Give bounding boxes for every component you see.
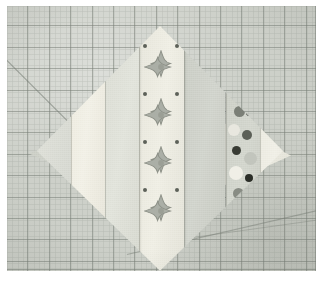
fabric-strip-5	[184, 14, 226, 271]
quilt-block-photo	[0, 0, 322, 282]
print-dot	[230, 30, 239, 39]
fabric-strip-6-dots	[226, 14, 260, 271]
print-dot	[240, 64, 254, 78]
print-dot	[232, 46, 245, 59]
print-dot	[228, 66, 238, 76]
print-dot	[247, 86, 256, 95]
cutting-mat	[7, 6, 316, 271]
fabric-texture	[29, 14, 71, 271]
fabric-texture	[226, 14, 260, 271]
fabric-texture	[71, 14, 105, 271]
seam-line	[71, 14, 72, 271]
seam-shadow	[139, 14, 142, 271]
print-dot	[175, 92, 179, 96]
four-petal-flower-icon	[144, 50, 178, 84]
fabric-texture	[105, 14, 139, 271]
print-dot	[246, 194, 256, 204]
fabric-strip-1	[29, 14, 71, 271]
seam-shadow	[184, 14, 187, 271]
fabric-strip-3	[105, 14, 139, 271]
four-petal-flower-icon	[144, 146, 178, 180]
print-dot	[242, 214, 251, 223]
print-dot	[230, 84, 246, 100]
four-petal-flower-icon	[144, 194, 178, 228]
four-petal-flower-icon	[144, 98, 178, 132]
print-dot	[244, 152, 257, 165]
print-dot	[175, 140, 179, 144]
fabric-strip-2	[71, 14, 105, 271]
print-dot	[175, 188, 179, 192]
quilt-block	[29, 14, 291, 271]
fabric-strip-7	[260, 14, 291, 271]
seam-line	[226, 14, 227, 271]
print-dot	[143, 44, 147, 48]
print-dot	[246, 109, 253, 116]
fabric-strip-4-motif	[139, 14, 184, 271]
seam-line	[260, 14, 261, 271]
print-dot	[246, 44, 254, 52]
print-dot	[242, 130, 252, 140]
fabric-texture	[260, 14, 291, 271]
print-dot	[233, 188, 244, 199]
print-dot	[232, 146, 241, 155]
print-dot	[143, 92, 147, 96]
print-dot	[234, 106, 245, 117]
print-dot	[234, 228, 244, 238]
on-point-square	[29, 14, 291, 271]
print-dot	[229, 166, 243, 180]
print-dot	[143, 140, 147, 144]
seam-line	[105, 14, 106, 271]
print-dot	[245, 174, 253, 182]
fabric-texture	[184, 14, 226, 271]
print-dot	[143, 188, 147, 192]
print-dot	[228, 124, 240, 136]
print-dot	[175, 44, 179, 48]
print-dot	[242, 24, 254, 36]
print-dot	[228, 208, 240, 220]
